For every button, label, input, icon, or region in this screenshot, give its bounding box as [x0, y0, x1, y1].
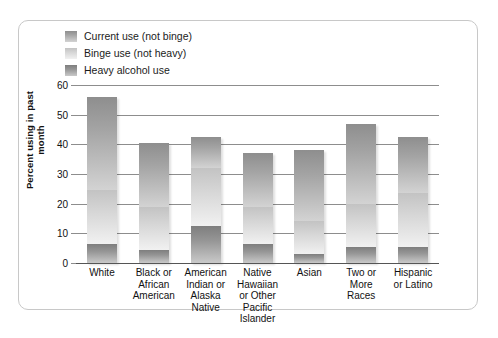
chart-card: Current use (not binge) Binge use (not h…	[18, 20, 478, 310]
bar-segment-binge[interactable]	[87, 190, 117, 243]
bar-segment-binge[interactable]	[243, 207, 273, 244]
x-axis-label: NativeHawaiianor OtherPacificIslander	[229, 267, 287, 325]
y-tick-label-0: 0	[62, 258, 68, 269]
x-axis-label-line: Asian	[280, 267, 338, 279]
chart-plot-wrapper: Percent using in past month 010203040506…	[19, 21, 477, 309]
bar-segment-heavy[interactable]	[346, 247, 376, 263]
y-axis-title: Percent using in past month	[24, 80, 46, 200]
y-tick-label-60: 60	[57, 80, 68, 91]
x-axis-label-line: American	[177, 267, 235, 279]
bar-segment-current[interactable]	[346, 124, 376, 204]
bar-segment-binge[interactable]	[346, 204, 376, 247]
x-axis-label-line: White	[73, 267, 131, 279]
bar-segment-binge[interactable]	[139, 207, 169, 250]
x-axis-label-line: Islander	[229, 313, 287, 325]
stacked-bar[interactable]	[294, 150, 324, 263]
gridline-40	[76, 144, 439, 145]
y-tick-label-30: 30	[57, 169, 68, 180]
x-axis-label-line: or Other	[229, 290, 287, 302]
x-axis-label: Hispanicor Latino	[384, 267, 442, 290]
bar-segment-heavy[interactable]	[87, 244, 117, 263]
bar-segment-heavy[interactable]	[139, 250, 169, 263]
y-tick-mark-40	[71, 144, 76, 145]
plot-area: 0102030405060 WhiteBlack orAfricanAmeric…	[76, 85, 439, 263]
stacked-bar[interactable]	[346, 124, 376, 263]
bar-segment-binge[interactable]	[191, 168, 221, 226]
gridline-60	[76, 85, 439, 86]
x-axis-label-line: Two or	[332, 267, 390, 279]
x-axis-label-line: Hispanic	[384, 267, 442, 279]
y-tick-label-20: 20	[57, 198, 68, 209]
bar-segment-heavy[interactable]	[294, 254, 324, 263]
x-axis-label-line: Native	[177, 302, 235, 314]
x-axis-label-line: Pacific	[229, 302, 287, 314]
x-axis-label: AmericanIndian orAlaskaNative	[177, 267, 235, 313]
bar-segment-current[interactable]	[294, 150, 324, 221]
x-axis-label-line: Hawaiian	[229, 279, 287, 291]
x-axis-line	[76, 263, 439, 264]
x-axis-label-line: or Latino	[384, 279, 442, 291]
x-axis-label-line: More	[332, 279, 390, 291]
y-tick-mark-50	[71, 115, 76, 116]
y-tick-label-40: 40	[57, 139, 68, 150]
x-axis-label: Asian	[280, 267, 338, 279]
x-axis-label-line: Alaska	[177, 290, 235, 302]
bar-segment-current[interactable]	[87, 97, 117, 190]
stacked-bar[interactable]	[87, 97, 117, 263]
y-tick-mark-60	[71, 85, 76, 86]
y-tick-mark-10	[71, 233, 76, 234]
x-axis-label: Black orAfricanAmerican	[125, 267, 183, 302]
stacked-bar[interactable]	[191, 137, 221, 263]
x-axis-label-line: Native	[229, 267, 287, 279]
x-axis-label: White	[73, 267, 131, 279]
bar-segment-binge[interactable]	[294, 221, 324, 254]
y-tick-label-50: 50	[57, 109, 68, 120]
x-axis-label: Two orMoreRaces	[332, 267, 390, 302]
y-tick-mark-20	[71, 204, 76, 205]
y-tick-label-10: 10	[57, 228, 68, 239]
x-axis-label-line: Races	[332, 290, 390, 302]
x-axis-label-line: Black or	[125, 267, 183, 279]
bar-segment-current[interactable]	[243, 153, 273, 206]
gridline-50	[76, 115, 439, 116]
bar-segment-current[interactable]	[139, 143, 169, 207]
bar-segment-binge[interactable]	[398, 193, 428, 246]
bar-segment-heavy[interactable]	[243, 244, 273, 263]
stacked-bar[interactable]	[398, 137, 428, 263]
y-tick-mark-30	[71, 174, 76, 175]
bar-segment-current[interactable]	[191, 137, 221, 168]
x-axis-label-line: Indian or	[177, 279, 235, 291]
stacked-bar[interactable]	[139, 143, 169, 263]
bar-segment-heavy[interactable]	[398, 247, 428, 263]
x-axis-label-line: American	[125, 290, 183, 302]
x-axis-label-line: African	[125, 279, 183, 291]
stacked-bar[interactable]	[243, 153, 273, 263]
bar-segment-current[interactable]	[398, 137, 428, 193]
bar-segment-heavy[interactable]	[191, 226, 221, 263]
